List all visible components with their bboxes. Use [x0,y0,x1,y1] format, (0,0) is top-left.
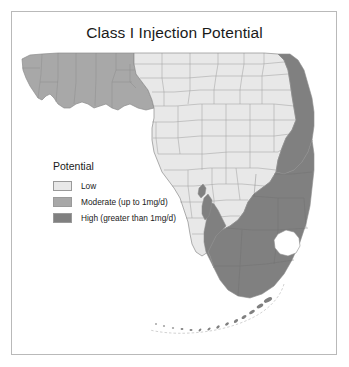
legend-item-moderate[interactable]: Moderate (up to 1mg/d) [53,195,233,208]
legend-label-moderate: Moderate (up to 1mg/d) [81,197,168,207]
florida-keys [155,296,273,332]
legend-item-high[interactable]: High (greater than 1mg/d) [53,211,233,224]
figure-root: Class I Injection Potential [0,0,349,367]
legend-title: Potential [53,160,233,172]
map-legend: Potential Low Moderate (up to 1mg/d) Hig… [53,160,233,227]
legend-swatch-low [53,181,72,191]
legend-item-low[interactable]: Low [53,179,233,192]
legend-label-low: Low [81,181,96,191]
legend-swatch-high [53,213,72,223]
legend-swatch-moderate [53,197,72,207]
legend-label-high: High (greater than 1mg/d) [81,213,176,223]
